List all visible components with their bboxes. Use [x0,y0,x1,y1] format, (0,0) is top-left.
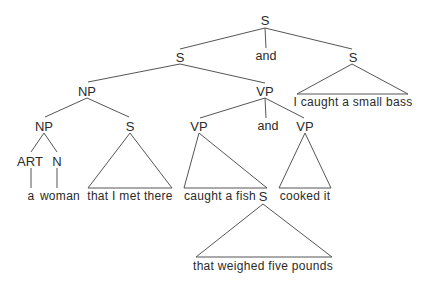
node-np-inner: NP [35,120,53,133]
edge-vp-and [265,98,266,118]
node-conj-top: and [256,50,277,63]
edge-vp-vp-left [200,98,265,118]
node-vp: VP [256,85,273,98]
node-s-fish: S [259,190,268,203]
triangle-vp-left [184,133,267,188]
node-s-left: S [176,51,185,64]
leaf-caught-fish: caught a fish [184,190,256,202]
triangle-s-rel [88,133,172,188]
triangle-s-right [297,64,408,94]
node-vp-right: VP [296,120,313,133]
node-np: NP [78,85,96,98]
leaf-small-bass: I caught a small bass [293,96,412,108]
edge-s-vp [180,64,265,83]
node-art: ART [17,155,43,168]
leaf-rel-clause: that I met there [87,190,173,202]
leaf-a: a [28,190,35,202]
leaf-weighed: that weighed five pounds [193,260,333,272]
node-vp-left: VP [190,120,207,133]
leaf-woman: woman [40,190,80,202]
triangle-s-fish [196,204,332,257]
edge-np-np [45,98,87,117]
node-root-s: S [261,14,270,27]
leaf-cooked-it: cooked it [280,190,331,202]
edge-s-np [88,64,180,82]
node-conj-vp: and [258,120,279,133]
edge-np-n [44,133,57,152]
syntax-tree-diagram: S and S S NP VP NP S VP and VP ART N S a… [0,0,426,287]
edge-np-s [87,98,129,117]
node-s-right: S [349,51,358,64]
edge-root-and [265,28,266,48]
edge-root-s-left [180,28,265,49]
node-s-rel: S [126,120,135,133]
tree-edges [0,0,426,287]
edge-root-s-right [265,28,352,49]
node-n: N [52,155,61,168]
triangle-vp-right [279,133,331,188]
edge-np-art [31,133,44,152]
